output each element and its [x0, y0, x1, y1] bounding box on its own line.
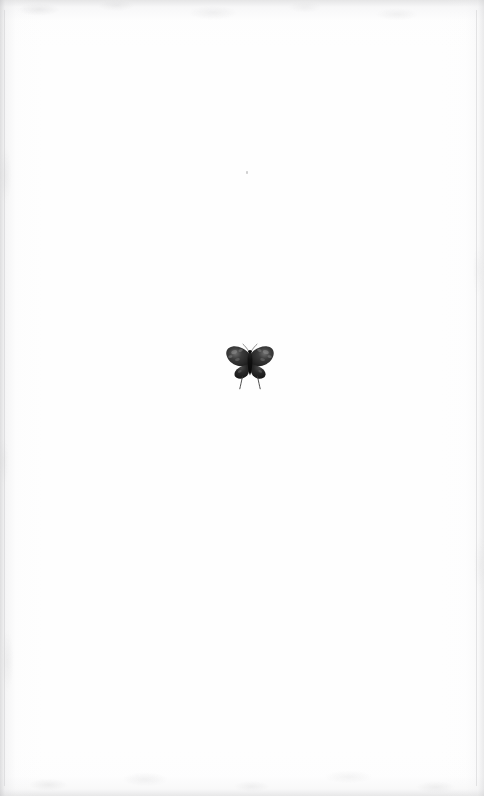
- butterfly-illustration: [222, 338, 278, 394]
- butterfly-head: [248, 350, 252, 353]
- butterfly-hindwing-right: [251, 364, 266, 379]
- butterfly-tails: [240, 377, 260, 389]
- butterfly-hindwing-left: [234, 364, 249, 379]
- butterfly-icon: [222, 338, 278, 394]
- scanned-page: [0, 0, 484, 796]
- paper-background: [0, 0, 484, 796]
